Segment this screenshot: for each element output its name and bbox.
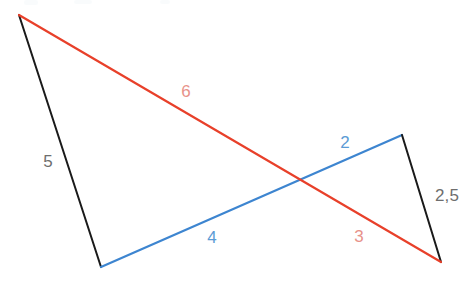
diagram-canvas: 5 6 2 4 3 2,5 — [0, 0, 475, 292]
segment-label-2-5: 2,5 — [435, 186, 459, 205]
segment-label-2: 2 — [340, 133, 350, 152]
segment-label-3: 3 — [354, 227, 364, 246]
segment-label-6: 6 — [181, 82, 191, 101]
line-diagram-svg: 5 6 2 4 3 2,5 — [0, 0, 475, 292]
red-segment — [19, 15, 441, 262]
blue-segment — [101, 135, 402, 267]
left-black-segment — [19, 15, 101, 267]
segment-label-4: 4 — [207, 228, 217, 247]
segment-label-5: 5 — [43, 152, 53, 171]
